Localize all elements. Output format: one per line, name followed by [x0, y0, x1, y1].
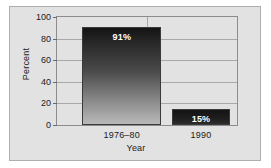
bar-value-label: 91% — [83, 32, 160, 42]
y-tick-mark — [53, 60, 57, 61]
y-tick-label: 100 — [36, 12, 51, 22]
x-tick-label-1976-80: 1976–80 — [64, 130, 179, 140]
y-tick-mark — [53, 17, 57, 18]
x-axis-title: Year — [10, 143, 262, 153]
bar-1976-80: 91% — [82, 27, 161, 125]
bar-chart-figure: Percent Year 0 20 40 60 80 — [9, 6, 261, 161]
y-tick-mark — [53, 82, 57, 83]
x-tick-label-1990: 1990 — [165, 130, 237, 140]
y-tick-label: 80 — [41, 34, 51, 44]
y-tick-label: 60 — [41, 55, 51, 65]
y-axis-title: Percent — [21, 29, 31, 99]
bar-value-label: 15% — [173, 114, 229, 124]
plot-area: 0 20 40 60 80 100 91% — [56, 16, 238, 126]
y-tick-label: 20 — [41, 98, 51, 108]
y-tick-mark — [53, 125, 57, 126]
y-tick-mark — [53, 39, 57, 40]
y-tick-label: 40 — [41, 77, 51, 87]
y-tick-mark — [53, 103, 57, 104]
bar-1990: 15% — [172, 109, 230, 125]
y-tick-label: 0 — [46, 120, 51, 130]
